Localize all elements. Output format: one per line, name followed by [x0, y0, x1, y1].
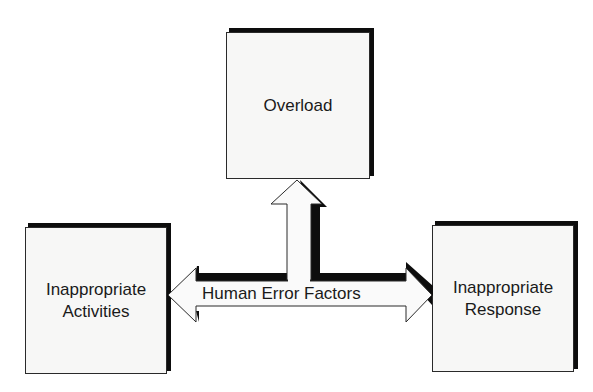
human-error-factors-label: Human Error Factors: [202, 284, 361, 304]
arrows-graphic: [0, 0, 593, 392]
